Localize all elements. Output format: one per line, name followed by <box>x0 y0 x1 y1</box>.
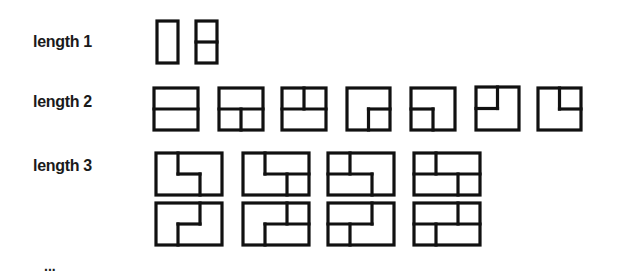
tiling-l2-4 <box>347 88 390 130</box>
tiling-l1-2 <box>196 21 217 63</box>
tiling-group-length-1 <box>157 21 217 63</box>
tiling-l3-8 <box>414 203 480 245</box>
tiling-group-length-2 <box>154 87 581 130</box>
tiling-l2-5 <box>411 88 455 130</box>
tiling-l2-2 <box>219 88 263 130</box>
tiling-l1-1 <box>157 21 178 63</box>
tiling-l3-7 <box>328 203 394 245</box>
tiling-l2-1 <box>154 88 198 130</box>
tiling-l2-3 <box>282 88 326 130</box>
tiling-l3-4 <box>414 153 480 195</box>
tiling-group-length-3 <box>156 153 480 245</box>
tiling-l3-5 <box>156 203 222 245</box>
tiling-outline <box>157 21 178 63</box>
tiling-l2-7 <box>538 88 581 130</box>
tiling-l3-6 <box>243 203 309 245</box>
tiling-l3-3 <box>328 153 394 195</box>
tiling-l3-1 <box>156 153 222 195</box>
tiling-l3-2 <box>243 153 309 195</box>
tilings-diagram <box>0 0 617 280</box>
tiling-l2-6 <box>476 87 519 130</box>
